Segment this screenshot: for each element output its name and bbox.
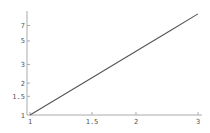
data-series: [30, 14, 198, 115]
y-tick-label: 5: [21, 37, 25, 45]
y-tick-label: 1: [21, 112, 25, 120]
y-tick-label: 1.5: [12, 93, 25, 101]
ticks: 11.52311.52357: [12, 22, 200, 126]
x-tick-label: 1: [28, 118, 32, 126]
y-tick-label: 7: [21, 22, 25, 30]
y-tick-label: 3: [21, 61, 25, 69]
y-tick-label: 2: [21, 80, 25, 88]
axes: [27, 11, 202, 115]
series-line: [30, 14, 198, 115]
x-tick-label: 1.5: [86, 118, 99, 126]
loglog-plot: 11.52311.52357: [0, 0, 210, 133]
x-tick-label: 2: [134, 118, 138, 126]
x-tick-label: 3: [196, 118, 200, 126]
